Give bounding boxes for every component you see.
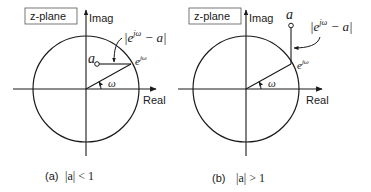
- pole-point-a: [95, 62, 100, 67]
- z-plane-diagram: z-plane Imag Real ω a ejω |ejω − a| (a): [0, 0, 371, 192]
- z-plane-label-box: z-plane: [25, 8, 77, 24]
- distance-leader-arrow: [294, 37, 320, 48]
- caption-condition-b: |a| > 1: [236, 171, 265, 185]
- unit-point-label: ejω: [297, 58, 309, 71]
- distance-leader-arrow: [114, 38, 122, 62]
- angle-label: ω: [268, 77, 276, 89]
- distance-label: |ejω − a|: [124, 29, 167, 45]
- imag-axis-label: Imag: [249, 12, 273, 24]
- panel-a: z-plane Imag Real ω a ejω |ejω − a| (a): [13, 8, 167, 183]
- angle-arc: [259, 82, 261, 89]
- z-plane-label-box: z-plane: [189, 8, 241, 24]
- caption-tag-b: (b): [212, 172, 225, 184]
- z-plane-label: z-plane: [30, 10, 66, 22]
- panel-b: z-plane Imag Real ω a ejω |ejω − a| (b) …: [178, 7, 353, 185]
- real-axis-label: Real: [143, 94, 166, 106]
- real-axis-label: Real: [306, 94, 329, 106]
- point-a-label: a: [286, 7, 293, 22]
- z-plane-label: z-plane: [194, 10, 230, 22]
- distance-label: |ejω − a|: [310, 18, 353, 34]
- angle-label: ω: [108, 77, 116, 89]
- point-a-label: a: [88, 51, 95, 66]
- caption-tag-a: (a): [45, 170, 58, 182]
- caption-condition-a: |a| < 1: [65, 169, 94, 183]
- unit-point-label: ejω: [135, 54, 147, 67]
- pole-point-a: [289, 23, 294, 28]
- imag-axis-label: Imag: [89, 12, 113, 24]
- angle-arc: [99, 82, 101, 89]
